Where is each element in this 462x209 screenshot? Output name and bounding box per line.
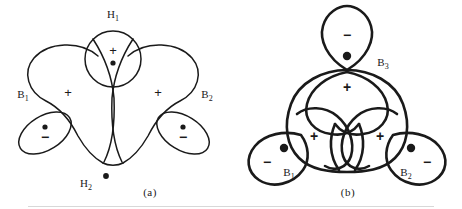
scan-edge-artifact bbox=[28, 206, 434, 207]
orbital-diagram-a: + + + − − H1 B1 B2 H2 (a) bbox=[0, 0, 231, 209]
sign-plus-right: + bbox=[154, 85, 162, 100]
label-b1: B1 bbox=[17, 88, 28, 103]
orbital-diagram-b: − + + + − − B3 B1 B2 (b) bbox=[231, 0, 462, 209]
sign-minus-b1: − bbox=[263, 154, 271, 170]
petal-center-lens-right bbox=[355, 124, 363, 170]
figure-root: + + + − − H1 B1 B2 H2 (a) bbox=[0, 0, 462, 209]
sign-plus-h1: + bbox=[109, 43, 117, 58]
label-h2: H2 bbox=[80, 177, 92, 192]
h2-nucleus-dot bbox=[103, 173, 109, 179]
label-b1: B1 bbox=[283, 166, 294, 181]
b2-nucleus-dot bbox=[407, 144, 415, 152]
sign-plus-lower-left: + bbox=[310, 128, 318, 144]
sign-plus-left: + bbox=[64, 85, 72, 100]
caption-a: (a) bbox=[143, 186, 157, 199]
label-b2: B2 bbox=[201, 88, 212, 103]
sign-minus-b1: − bbox=[41, 129, 49, 145]
lobe-b1-bonding bbox=[28, 45, 103, 163]
b3-nucleus-dot bbox=[343, 52, 351, 60]
lobe-b2-bonding bbox=[123, 45, 198, 163]
sign-minus-b2: − bbox=[423, 154, 431, 170]
label-b3: B3 bbox=[377, 56, 388, 71]
label-h1: H1 bbox=[107, 8, 119, 23]
caption-b: (b) bbox=[341, 186, 355, 199]
b1-nucleus-dot bbox=[280, 144, 288, 152]
sign-plus-lower-right: + bbox=[376, 128, 384, 144]
h1-nucleus-dot bbox=[110, 60, 115, 65]
sign-plus-top: + bbox=[343, 79, 351, 95]
lobe-bottom-join bbox=[103, 163, 123, 165]
petal-center-lens-left bbox=[331, 124, 339, 170]
sign-minus-b2: − bbox=[179, 129, 187, 145]
sign-minus-b3: − bbox=[343, 27, 351, 43]
